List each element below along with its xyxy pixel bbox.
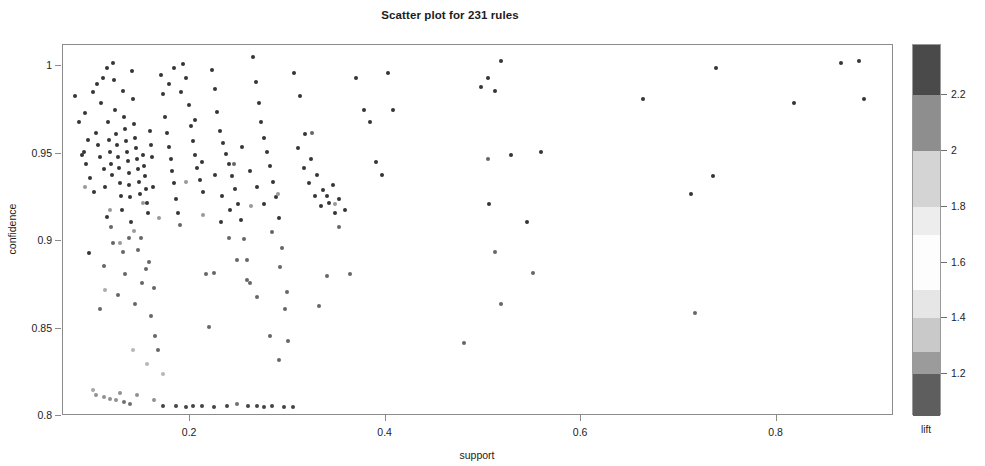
data-point [689,192,693,196]
data-point [368,120,372,124]
data-point [303,132,307,136]
data-point [123,127,127,131]
data-point [94,393,98,397]
data-point [156,348,160,352]
data-point [144,267,148,271]
data-point [321,188,325,192]
data-point [146,211,150,215]
data-point [245,258,249,262]
data-point [462,341,466,345]
data-point [319,204,323,208]
data-point [129,220,133,224]
data-point [170,169,174,173]
data-point [201,213,205,217]
data-point [135,157,139,161]
data-point [94,131,98,135]
data-point [98,307,102,311]
data-point [228,208,232,212]
data-point [714,66,718,70]
colorbar-band [913,235,940,291]
data-point [262,405,266,409]
y-tick-label: 1 [16,59,52,71]
data-point [124,139,128,143]
data-point [114,132,118,136]
x-tick-mark [385,415,386,421]
data-point [109,162,113,166]
data-point [213,173,217,177]
data-point [333,202,337,206]
data-point [249,204,253,208]
data-point [327,201,331,205]
data-point [133,302,137,306]
data-point [147,260,151,264]
data-point [108,208,112,212]
data-point [276,192,280,196]
data-point [112,78,116,82]
data-point [386,71,390,75]
data-point [219,220,223,224]
data-point [121,89,125,93]
data-point [108,397,112,401]
data-point [167,145,171,149]
data-point [343,208,347,212]
y-tick-mark [55,415,61,416]
data-point [172,181,176,185]
data-point [117,166,121,170]
colorbar-tick-label: 1.6 [951,256,966,268]
data-point [127,171,131,175]
data-point [149,143,153,147]
data-point [149,314,153,318]
data-point [102,167,106,171]
data-point [479,85,483,89]
data-point [204,272,208,276]
data-point [254,80,258,84]
data-point [83,111,87,115]
data-point [792,101,796,105]
data-point [116,293,120,297]
y-tick-label: 0.9 [16,234,52,246]
data-point [337,225,341,229]
data-point [130,69,134,73]
data-point [73,94,77,98]
data-point [499,302,503,306]
data-point [167,82,171,86]
data-point [220,194,224,198]
data-point [313,194,317,198]
data-point [80,153,84,157]
data-point [268,334,272,338]
page-title: Scatter plot for 231 rules [0,9,900,21]
data-point [115,143,119,147]
data-point [91,388,95,392]
data-point [235,402,239,406]
x-tick-mark [189,415,190,421]
data-point [227,162,231,166]
data-point [212,271,216,275]
data-point [221,141,225,145]
data-point [193,153,197,157]
data-point [280,246,284,250]
data-point [178,223,182,227]
data-point [277,216,281,220]
data-point [493,250,497,254]
data-point [165,131,169,135]
y-tick-mark [55,328,61,329]
data-point [255,295,259,299]
data-point [118,391,122,395]
data-point [77,120,81,124]
data-point [96,143,100,147]
data-point [354,76,358,80]
data-point [141,153,145,157]
data-point [141,201,145,205]
y-tick-mark [55,240,61,241]
data-point [212,405,216,409]
data-point [862,97,866,101]
colorbar-band [913,45,940,95]
x-tick-label: 0.8 [768,426,783,438]
data-point [184,76,188,80]
data-point [232,162,236,166]
data-point [302,166,306,170]
data-point [711,174,715,178]
data-point [255,185,259,189]
data-point [123,272,127,276]
data-point [121,250,125,254]
